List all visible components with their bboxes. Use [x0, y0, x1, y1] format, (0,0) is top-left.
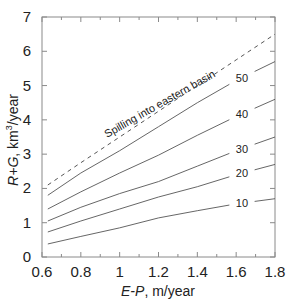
y-tick-label: 1 [23, 214, 31, 231]
series-label-40: 40 [236, 108, 248, 120]
series-line-20 [48, 177, 230, 232]
series-line-10-end [255, 199, 275, 202]
series-line-20-end [255, 164, 275, 169]
y-tick-label: 6 [23, 42, 31, 59]
series-line-10 [48, 205, 230, 244]
series-line-50-end [255, 62, 275, 72]
series-label-10: 10 [236, 197, 248, 209]
series-labels: 5040302010 [236, 72, 248, 209]
axes [42, 17, 275, 257]
series-label-30: 30 [236, 143, 248, 155]
annotation-spilling: Spilling into eastern basin [102, 68, 217, 140]
series-line-40-end [255, 99, 275, 108]
chart: 0.60.811.21.41.61.801234567 5040302010 S… [0, 0, 292, 304]
y-tick-label: 5 [23, 77, 31, 94]
x-tick-label: 0.8 [70, 263, 91, 280]
x-tick-label: 1.6 [226, 263, 247, 280]
y-axis-label: R+G, km3/year [4, 94, 21, 186]
series-label-20: 20 [236, 167, 248, 179]
series-line-50 [48, 84, 230, 195]
y-tick-label: 7 [23, 8, 31, 25]
series-label-50: 50 [236, 72, 248, 84]
x-tick-label: 1 [115, 263, 123, 280]
x-tick-label: 1.2 [148, 263, 169, 280]
series-lines [48, 34, 275, 244]
y-tick-label: 2 [23, 179, 31, 196]
x-tick-label: 0.6 [32, 263, 53, 280]
plot-frame [42, 17, 275, 257]
series-line-30-end [255, 137, 275, 144]
x-tick-label: 1.4 [187, 263, 208, 280]
x-axis-label: E-P, m/year [121, 283, 195, 299]
y-tick-label: 0 [23, 248, 31, 265]
y-tick-label: 3 [23, 145, 31, 162]
series-line-30 [48, 153, 230, 221]
y-tick-label: 4 [23, 111, 31, 128]
x-tick-label: 1.8 [265, 263, 286, 280]
